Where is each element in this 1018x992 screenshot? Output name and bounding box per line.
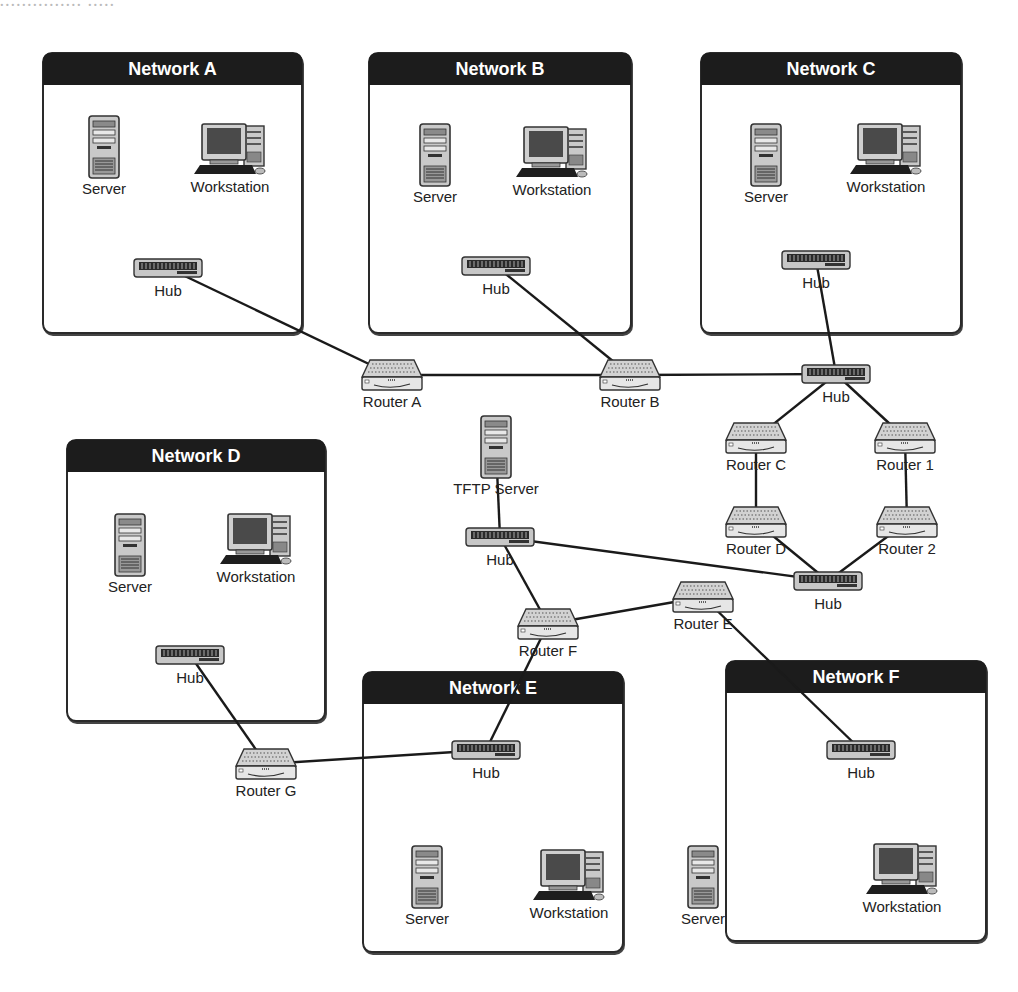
router-icon (360, 357, 424, 393)
workstation-node-workstatione: Workstation (509, 848, 629, 921)
node-label: Server (375, 188, 495, 205)
node-label: Server (70, 578, 190, 595)
router-node-routerb: Router B (570, 357, 690, 410)
node-label: Workstation (826, 178, 946, 195)
workstation-node-workstationb: Workstation (492, 125, 612, 198)
hub-node-hubf: Hub (801, 740, 921, 781)
node-label: Server (643, 910, 763, 927)
router-node-routere: Router E (643, 579, 763, 632)
server-icon (686, 844, 720, 910)
workstation-icon (531, 848, 607, 904)
server-node-serverc: Server (706, 122, 826, 205)
server-node-servere: Server (367, 844, 487, 927)
router-icon (724, 420, 788, 456)
hub-icon (781, 250, 851, 270)
server-icon (749, 122, 783, 188)
node-label: Workstation (196, 568, 316, 585)
hub-node-hubb: Hub (436, 256, 556, 297)
router-icon (875, 504, 939, 540)
node-label: Workstation (170, 178, 290, 195)
hub-node-hublow: Hub (768, 571, 888, 612)
node-label: Workstation (509, 904, 629, 921)
node-label: Router A (332, 393, 452, 410)
node-label: Hub (440, 551, 560, 568)
router-icon (724, 504, 788, 540)
hub-node-hubc: Hub (756, 250, 876, 291)
router-node-router2: Router 2 (847, 504, 967, 557)
network-title: Network B (369, 53, 631, 85)
router-node-routera: Router A (332, 357, 452, 410)
router-node-routerd: Router D (696, 504, 816, 557)
node-label: Hub (436, 280, 556, 297)
node-label: Hub (756, 274, 876, 291)
router-node-router1: Router 1 (845, 420, 965, 473)
workstation-node-workstationd: Workstation (196, 512, 316, 585)
router-node-routerg: Router G (206, 746, 326, 799)
workstation-icon (848, 122, 924, 178)
server-icon (113, 512, 147, 578)
network-title: Network D (67, 440, 325, 472)
node-label: Hub (776, 388, 896, 405)
workstation-icon (514, 125, 590, 181)
node-label: Workstation (492, 181, 612, 198)
node-label: Server (367, 910, 487, 927)
network-title: Network A (43, 53, 302, 85)
hub-node-hube: Hub (426, 740, 546, 781)
cutoff-caption: ............... ..... (0, 0, 116, 11)
hub-icon (826, 740, 896, 760)
server-node-serverd: Server (70, 512, 190, 595)
node-label: Hub (130, 669, 250, 686)
node-label: Router D (696, 540, 816, 557)
node-label: TFTP Server (436, 480, 556, 497)
router-icon (598, 357, 662, 393)
router-icon (873, 420, 937, 456)
router-node-routerc: Router C (696, 420, 816, 473)
workstation-node-workstationa: Workstation (170, 122, 290, 195)
node-label: Hub (768, 595, 888, 612)
node-label: Hub (108, 282, 228, 299)
router-node-routerf: Router F (488, 606, 608, 659)
hub-node-hubcore: Hub (776, 364, 896, 405)
node-label: Router 1 (845, 456, 965, 473)
workstation-icon (864, 842, 940, 898)
node-label: Router E (643, 615, 763, 632)
server-node-tftp: TFTP Server (436, 414, 556, 497)
node-label: Router C (696, 456, 816, 473)
workstation-icon (192, 122, 268, 178)
hub-icon (801, 364, 871, 384)
node-label: Hub (426, 764, 546, 781)
hub-node-huba: Hub (108, 258, 228, 299)
server-node-serverf: Server (643, 844, 763, 927)
router-icon (516, 606, 580, 642)
node-label: Server (706, 188, 826, 205)
hub-icon (461, 256, 531, 276)
network-diagram: ............... ..... Network ANetwork B… (0, 0, 1018, 992)
node-label: Router G (206, 782, 326, 799)
hub-icon (133, 258, 203, 278)
hub-icon (451, 740, 521, 760)
workstation-icon (218, 512, 294, 568)
server-icon (410, 844, 444, 910)
network-title: Network E (363, 672, 623, 704)
node-label: Hub (801, 764, 921, 781)
server-icon (418, 122, 452, 188)
network-title: Network F (726, 661, 986, 693)
node-label: Router B (570, 393, 690, 410)
hub-node-hubd: Hub (130, 645, 250, 686)
workstation-node-workstationc: Workstation (826, 122, 946, 195)
hub-icon (155, 645, 225, 665)
node-label: Router 2 (847, 540, 967, 557)
server-node-serverb: Server (375, 122, 495, 205)
router-icon (234, 746, 298, 782)
node-label: Workstation (842, 898, 962, 915)
server-icon (87, 114, 121, 180)
router-icon (671, 579, 735, 615)
hub-node-hubmid: Hub (440, 527, 560, 568)
workstation-node-workstationf: Workstation (842, 842, 962, 915)
hub-icon (793, 571, 863, 591)
network-title: Network C (701, 53, 961, 85)
server-icon (479, 414, 513, 480)
node-label: Server (44, 180, 164, 197)
node-label: Router F (488, 642, 608, 659)
hub-icon (465, 527, 535, 547)
